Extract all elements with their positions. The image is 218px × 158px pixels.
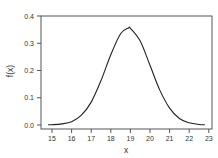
- y-axis: 0.00.10.20.30.4: [24, 13, 41, 129]
- plot-area: [41, 16, 212, 129]
- x-tick-label: 16: [68, 135, 76, 142]
- y-tick-label: 0.1: [24, 94, 34, 101]
- x-tick-label: 18: [107, 135, 115, 142]
- chart: 0.00.10.20.30.4 151617181920212223 x f(x…: [0, 0, 218, 158]
- plot-frame: [41, 16, 212, 129]
- x-tick-label: 15: [48, 135, 56, 142]
- y-tick-label: 0.3: [24, 40, 34, 47]
- y-tick-label: 0.0: [24, 122, 34, 129]
- x-tick-label: 17: [87, 135, 95, 142]
- x-axis: 151617181920212223: [48, 129, 213, 142]
- y-tick-label: 0.2: [24, 67, 34, 74]
- x-tick-label: 19: [127, 135, 135, 142]
- x-tick-label: 22: [185, 135, 193, 142]
- x-tick-label: 23: [205, 135, 213, 142]
- y-tick-label: 0.4: [24, 13, 34, 20]
- x-axis-label: x: [124, 145, 129, 155]
- density-curve: [48, 27, 205, 125]
- x-tick-label: 21: [166, 135, 174, 142]
- x-tick-label: 20: [146, 135, 154, 142]
- y-axis-label: f(x): [5, 65, 15, 77]
